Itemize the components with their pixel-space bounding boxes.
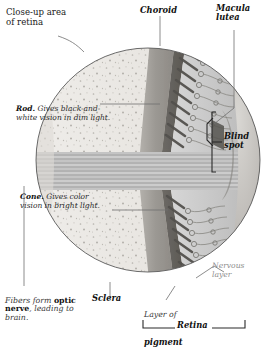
fibers-text-d: , leading to	[29, 304, 74, 313]
retina-cross-section	[20, 40, 265, 290]
nerve-term: nerve	[5, 304, 29, 313]
closeup-area-label: Close-up area of retina	[6, 8, 66, 27]
choroid-label: Choroid	[140, 6, 177, 15]
rod-callout: Rod. Gives black-and- white vision in di…	[16, 97, 112, 122]
macula-lutea-label: Macula lutea	[216, 4, 250, 23]
fibers-text-a: Fibers form	[5, 296, 54, 305]
fibers-text-e: brain.	[5, 313, 28, 322]
cone-callout: Cone. Gives color vision in bright light…	[20, 185, 116, 210]
optic-term: optic	[54, 296, 76, 305]
pigment-line-2: pigment	[144, 338, 204, 347]
optic-nerve-callout: Fibers form optic nerve, leading to brai…	[5, 288, 97, 323]
nervous-layer-label: Nervous layer	[212, 262, 244, 279]
blind-spot-label: Blind spot	[224, 132, 249, 151]
pigment-line-1: Layer of	[144, 311, 204, 320]
layer-of-pigment-label: Layer of pigment	[144, 293, 204, 351]
